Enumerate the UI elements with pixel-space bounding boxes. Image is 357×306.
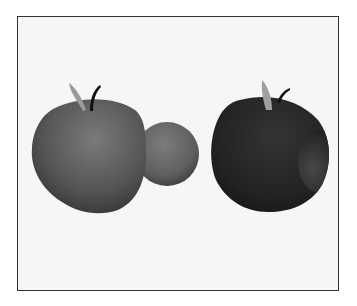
- apple-body-left: [32, 99, 146, 213]
- apple-scene: [0, 0, 357, 306]
- bite-cavity: [298, 130, 346, 194]
- apple-difference: [211, 80, 346, 212]
- apple-union: [32, 83, 199, 213]
